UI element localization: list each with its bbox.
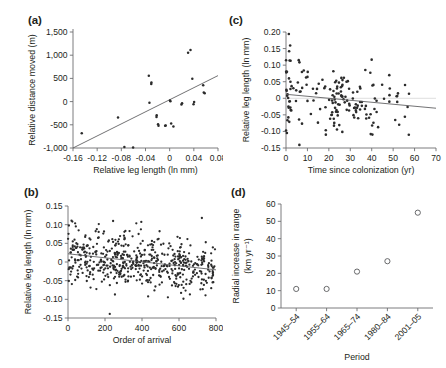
svg-text:0.05: 0.05	[264, 77, 281, 87]
svg-text:-1,000: -1,000	[43, 143, 68, 153]
svg-text:-0.05: -0.05	[43, 276, 63, 286]
svg-text:-500: -500	[50, 120, 67, 130]
panel-d-plot: 01020304050601945–541955–641965–741980–8…	[223, 184, 446, 368]
panel-c: (c) -0.15-0.10-0.0500.050.100.150.200102…	[223, 0, 446, 184]
svg-text:10: 10	[266, 286, 276, 296]
panel-a: (a) -1,000-50005001,0001,500-0.16-0.12-0…	[0, 0, 223, 184]
svg-text:40: 40	[266, 234, 276, 244]
svg-text:30: 30	[346, 153, 356, 163]
svg-text:0.04: 0.04	[185, 153, 202, 163]
svg-text:0: 0	[58, 257, 63, 267]
svg-text:0.15: 0.15	[46, 201, 63, 211]
svg-text:-0.10: -0.10	[261, 126, 281, 136]
svg-text:1965–74: 1965–74	[332, 311, 363, 342]
svg-text:0.05: 0.05	[46, 238, 63, 248]
svg-text:50: 50	[266, 216, 276, 226]
svg-text:0: 0	[284, 153, 289, 163]
svg-text:60: 60	[410, 153, 420, 163]
svg-text:-0.04: -0.04	[136, 153, 156, 163]
svg-text:10: 10	[303, 153, 313, 163]
svg-text:Time since colonization (yr): Time since colonization (yr)	[308, 165, 415, 175]
svg-text:200: 200	[98, 323, 113, 333]
svg-text:2001–05: 2001–05	[392, 311, 423, 342]
svg-text:1945–54: 1945–54	[271, 311, 302, 342]
svg-text:-0.05: -0.05	[261, 110, 281, 120]
svg-text:(km yr⁻¹): (km yr⁻¹)	[243, 238, 253, 273]
svg-text:60: 60	[266, 199, 276, 209]
svg-text:0.10: 0.10	[264, 60, 281, 70]
svg-text:0: 0	[167, 153, 172, 163]
svg-text:Radial increase in range: Radial increase in range	[231, 208, 241, 303]
svg-text:Relative leg length (ln mm): Relative leg length (ln mm)	[241, 38, 251, 143]
panel-b: (b) -0.15-0.10-0.0500.050.100.1502004006…	[0, 184, 223, 368]
svg-text:20: 20	[324, 153, 334, 163]
svg-text:-0.16: -0.16	[63, 153, 83, 163]
svg-text:Relative distance moved (m): Relative distance moved (m)	[27, 34, 37, 146]
svg-text:1,000: 1,000	[46, 50, 68, 60]
svg-text:400: 400	[135, 323, 150, 333]
svg-text:0: 0	[271, 303, 276, 313]
svg-text:500: 500	[53, 73, 68, 83]
svg-text:Period: Period	[344, 352, 370, 362]
svg-text:0: 0	[63, 97, 68, 107]
svg-text:0.08: 0.08	[210, 153, 223, 163]
svg-text:Relative leg length (ln mm): Relative leg length (ln mm)	[93, 165, 198, 175]
svg-text:800: 800	[209, 323, 223, 333]
svg-text:1980–84: 1980–84	[362, 311, 393, 342]
panel-d: (d) 01020304050601945–541955–641965–7419…	[223, 184, 446, 368]
svg-text:1955–64: 1955–64	[301, 311, 332, 342]
svg-text:Order of arrival: Order of arrival	[113, 335, 172, 345]
svg-text:-0.10: -0.10	[43, 294, 63, 304]
svg-text:-0.12: -0.12	[87, 153, 107, 163]
svg-text:0.20: 0.20	[264, 27, 281, 37]
svg-text:20: 20	[266, 268, 276, 278]
svg-text:600: 600	[172, 323, 187, 333]
panel-b-plot: -0.15-0.10-0.0500.050.100.15020040060080…	[0, 184, 223, 368]
svg-text:30: 30	[266, 251, 276, 261]
svg-text:0.10: 0.10	[46, 220, 63, 230]
svg-text:-0.08: -0.08	[112, 153, 132, 163]
multi-panel-figure: (a) -1,000-50005001,0001,500-0.16-0.12-0…	[0, 0, 446, 368]
svg-text:0: 0	[276, 93, 281, 103]
svg-text:50: 50	[388, 153, 398, 163]
svg-text:Relative leg length (ln mm): Relative leg length (ln mm)	[23, 210, 33, 315]
svg-text:40: 40	[367, 153, 377, 163]
svg-text:0.15: 0.15	[264, 44, 281, 54]
svg-text:0: 0	[66, 323, 71, 333]
panel-a-plot: -1,000-50005001,0001,500-0.16-0.12-0.08-…	[0, 0, 223, 184]
panel-c-plot: -0.15-0.10-0.0500.050.100.150.2001020304…	[223, 0, 446, 184]
svg-text:-0.15: -0.15	[43, 313, 63, 323]
svg-text:70: 70	[431, 153, 441, 163]
svg-text:-0.15: -0.15	[261, 143, 281, 153]
svg-text:1,500: 1,500	[46, 27, 68, 37]
